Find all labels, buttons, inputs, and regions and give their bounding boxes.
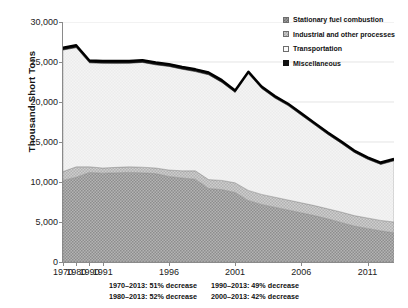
y-tick-label: 0: [53, 257, 58, 267]
y-tick-mark: [59, 222, 63, 223]
x-tick-label: 1996: [159, 267, 179, 277]
x-tick-mark: [103, 262, 104, 266]
footnote-item: 1970–2013: 51% decrease: [109, 281, 197, 290]
footnote-item: 1990–2013: 49% decrease: [211, 281, 299, 290]
y-tick-label: 15,000: [30, 137, 58, 147]
x-tick-mark: [368, 262, 369, 266]
stationary-swatch-icon: [283, 17, 289, 23]
y-tick-mark: [59, 102, 63, 103]
x-tick-label: 1991: [93, 267, 113, 277]
legend-item-industrial[interactable]: Industrial and other processes: [283, 31, 395, 38]
miscellaneous-swatch-icon: [283, 60, 289, 66]
x-tick-label: 2011: [358, 267, 377, 277]
footnote-grid: 1970–2013: 51% decrease 1990–2013: 49% d…: [109, 281, 299, 301]
x-tick-label: 2001: [225, 267, 245, 277]
legend-label: Transportation: [293, 45, 342, 52]
legend-item-stationary[interactable]: Stationary fuel combustion: [283, 16, 395, 23]
legend-item-transportation[interactable]: Transportation: [283, 45, 395, 52]
x-tick-mark: [235, 262, 236, 266]
footnote-item: 2000–2013: 42% decrease: [211, 292, 299, 301]
y-tick-mark: [59, 182, 63, 183]
y-tick-label: 20,000: [30, 97, 58, 107]
transportation-swatch-icon: [283, 46, 289, 52]
x-tick-label: 2006: [291, 267, 311, 277]
footnote-item: 1980–2013: 52% decrease: [109, 292, 197, 301]
legend-label: Miscellaneous: [293, 60, 341, 67]
x-tick-mark: [63, 262, 64, 266]
x-tick-mark: [169, 262, 170, 266]
y-tick-label: 25,000: [30, 57, 58, 67]
chart-figure: Thousand Short Tons 30,00025,00020,00015…: [0, 0, 408, 308]
footnote-block: 1970–2013: 51% decrease 1990–2013: 49% d…: [0, 281, 408, 301]
industrial-swatch-icon: [283, 31, 289, 37]
y-tick-label: 5,000: [35, 217, 58, 227]
y-tick-mark: [59, 22, 63, 23]
legend-label: Stationary fuel combustion: [293, 16, 383, 23]
x-tick-mark: [89, 262, 90, 266]
y-tick-label: 10,000: [30, 177, 58, 187]
chart-legend: Stationary fuel combustion Industrial an…: [283, 16, 395, 67]
x-tick-mark: [301, 262, 302, 266]
y-tick-mark: [59, 62, 63, 63]
legend-item-miscellaneous[interactable]: Miscellaneous: [283, 60, 395, 67]
legend-label: Industrial and other processes: [293, 31, 395, 38]
y-tick-mark: [59, 142, 63, 143]
x-tick-mark: [76, 262, 77, 266]
y-tick-label: 30,000: [30, 17, 58, 27]
